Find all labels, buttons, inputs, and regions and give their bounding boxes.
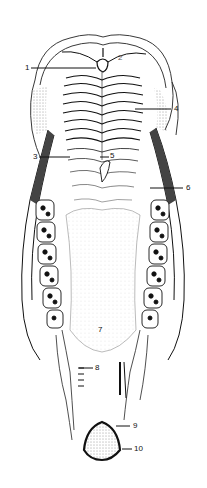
label-6: 6 xyxy=(186,184,190,192)
anatomical-figure xyxy=(0,0,207,488)
label-10: 10 xyxy=(134,445,143,453)
label-4: 4 xyxy=(174,105,178,113)
label-1: 1 xyxy=(25,64,29,72)
left-cheek-stipple xyxy=(32,86,49,135)
right-cheek-teeth xyxy=(142,200,169,328)
label-7: 7 xyxy=(98,326,102,334)
ridge-fold-5 xyxy=(100,161,110,182)
label-3: 3 xyxy=(33,153,37,161)
left-cheek-teeth xyxy=(36,200,63,328)
label-9: 9 xyxy=(133,422,137,430)
label-8: 8 xyxy=(95,364,99,372)
palatine-ridges xyxy=(63,72,143,202)
esophageal-opening xyxy=(84,422,120,460)
right-cheek-stipple xyxy=(154,88,168,132)
label-2: 2 xyxy=(118,54,122,62)
left-wall-shade xyxy=(30,130,54,205)
pharyngeal-folds xyxy=(78,362,126,398)
label-5: 5 xyxy=(110,152,114,160)
soft-palate xyxy=(66,208,140,352)
incisive-papilla xyxy=(97,59,108,72)
right-wall-shade xyxy=(150,128,176,205)
